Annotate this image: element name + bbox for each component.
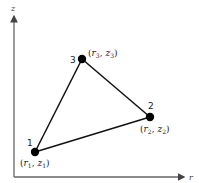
edge-3-1 [35,59,82,152]
edge-2-3 [82,59,150,117]
node-dot [31,148,39,156]
node-number: 1 [27,138,33,148]
diagram-canvas: z r 1 (r1, z1) 2 (r2, z2) 3 (r3, z3) [0,0,199,183]
node-number: 2 [148,101,154,111]
edge-1-2 [35,117,150,152]
axes: z r [10,4,194,182]
r-axis-label: r [189,173,194,182]
node-coord-label: (r1, z1) [20,158,49,169]
node-number: 3 [70,55,76,65]
z-axis-label: z [10,4,16,13]
node-dot [146,113,154,121]
node-coord-label: (r2, z2) [140,124,169,135]
triangle-element [35,59,150,152]
node-3: 3 (r3, z3) [70,48,117,65]
node-dot [78,55,86,63]
node-1: 1 (r1, z1) [20,138,49,169]
node-coord-label: (r3, z3) [88,48,117,59]
